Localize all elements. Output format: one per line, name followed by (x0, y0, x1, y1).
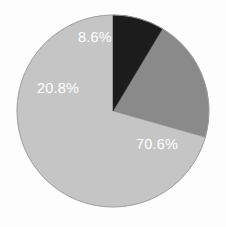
pie-chart-svg (0, 0, 226, 227)
pie-slice-group (17, 15, 209, 207)
pie-chart-figure: 70.6% 20.8% 8.6% (0, 0, 226, 227)
